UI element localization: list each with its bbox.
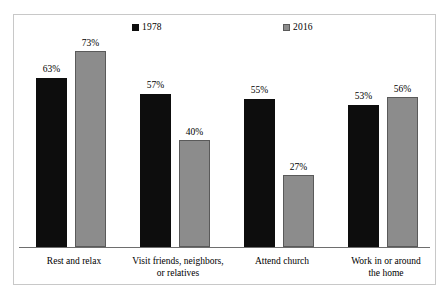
x-axis-label-work-in-or-around-the-home: Work in or around the home <box>338 255 434 279</box>
bar-value-label: 73% <box>82 39 99 49</box>
plot-area: 63% 73% 57% 40% 55% <box>14 15 435 248</box>
bar-group-bars: 53% 56% <box>342 15 430 247</box>
x-axis-line <box>19 247 430 248</box>
x-axis-label-visit-friends-neighbors-or-relatives: Visit friends, neighbors, or relatives <box>126 255 230 279</box>
x-axis-label-line: Rest and relax <box>30 255 118 267</box>
x-axis-label-line: Attend church <box>238 255 326 267</box>
bar-value-label: 56% <box>394 85 411 95</box>
x-axis-label-line: Work in or around <box>338 255 434 267</box>
x-axis-label-line: or relatives <box>126 267 230 279</box>
bar-group-bars: 57% 40% <box>134 15 222 247</box>
bar-group-bars: 55% 27% <box>238 15 326 247</box>
bar-group-3: 53% 56% <box>342 15 430 247</box>
x-axis-label-rest-and-relax: Rest and relax <box>30 255 118 267</box>
bar-1978-work-in-or-around-the-home[interactable]: 53% <box>348 105 379 247</box>
bar-1978-rest-and-relax[interactable]: 63% <box>36 78 67 247</box>
bar-1978-attend-church[interactable]: 55% <box>244 99 275 247</box>
bar-2016-work-in-or-around-the-home[interactable]: 56% <box>387 97 418 247</box>
bar-value-label: 57% <box>147 81 164 91</box>
bar-group-2: 55% 27% <box>238 15 326 247</box>
bar-group-0: 63% 73% <box>30 15 118 247</box>
x-axis-label-line: the home <box>338 267 434 279</box>
bar-2016-rest-and-relax[interactable]: 73% <box>75 51 106 247</box>
bar-value-label: 55% <box>251 86 268 96</box>
bar-value-label: 40% <box>186 128 203 138</box>
bar-value-label: 63% <box>43 65 60 75</box>
bar-2016-visit-friends-neighbors-or-relatives[interactable]: 40% <box>179 140 210 247</box>
chart-frame: 1978 2016 63% 73% 57% <box>13 14 436 285</box>
bar-value-label: 27% <box>290 163 307 173</box>
bar-1978-visit-friends-neighbors-or-relatives[interactable]: 57% <box>140 94 171 247</box>
bar-group-1: 57% 40% <box>134 15 222 247</box>
x-axis-label-attend-church: Attend church <box>238 255 326 267</box>
bar-group-bars: 63% 73% <box>30 15 118 247</box>
bar-value-label: 53% <box>355 92 372 102</box>
x-axis-label-line: Visit friends, neighbors, <box>126 255 230 267</box>
x-axis-labels: Rest and relax Visit friends, neighbors,… <box>14 249 435 285</box>
bar-2016-attend-church[interactable]: 27% <box>283 175 314 247</box>
